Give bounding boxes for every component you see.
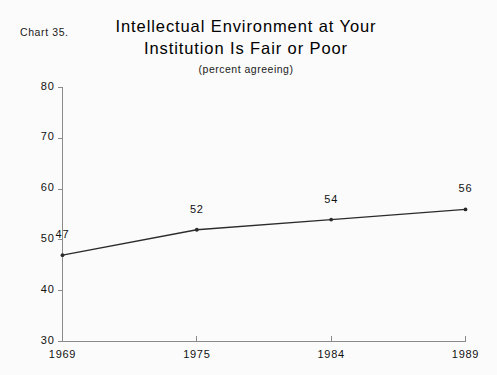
x-tick-label: 1969 [33, 348, 93, 360]
chart-figure: Chart 35. Intellectual Environment at Yo… [0, 0, 497, 375]
x-tick-label: 1989 [436, 348, 496, 360]
data-value-label: 52 [172, 203, 222, 215]
plot-svg [0, 0, 497, 375]
data-point-marker [464, 208, 468, 212]
y-tick-label: 40 [13, 283, 55, 295]
data-point-marker [195, 228, 199, 232]
y-tick-label: 30 [13, 334, 55, 346]
y-tick-label: 60 [13, 181, 55, 193]
data-point-marker [61, 253, 65, 257]
y-tick-label: 80 [13, 80, 55, 92]
data-value-label: 47 [38, 228, 88, 240]
data-series-line [63, 209, 466, 255]
x-tick-label: 1975 [167, 348, 227, 360]
y-tick-label: 70 [13, 130, 55, 142]
plot-area: 304050607080 1969197519841989 47525456 [0, 0, 497, 375]
data-value-label: 56 [441, 182, 491, 194]
x-tick-label: 1984 [301, 348, 361, 360]
data-point-marker [329, 218, 333, 222]
data-point-markers [61, 208, 468, 258]
data-value-label: 54 [306, 193, 356, 205]
